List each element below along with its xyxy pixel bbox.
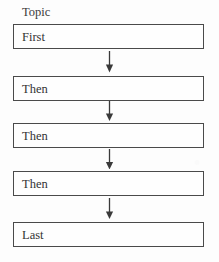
flow-step-label-3: Then — [14, 129, 48, 143]
flow-step-label-1: First — [14, 30, 45, 44]
flow-step-label-4: Then — [14, 177, 48, 191]
flow-step-label-2: Then — [14, 82, 48, 96]
flow-step-box-4[interactable]: Then — [13, 171, 204, 196]
down-arrow-icon-1 — [104, 51, 115, 73]
topic-label: Topic — [22, 5, 50, 20]
flowchart-canvas: Topic First Then Then Then — [0, 0, 219, 262]
flow-step-box-5[interactable]: Last — [13, 222, 204, 247]
down-arrow-icon-4 — [104, 197, 115, 219]
down-arrow-icon-2 — [104, 99, 115, 121]
flow-step-box-3[interactable]: Then — [13, 123, 204, 148]
flow-step-box-1[interactable]: First — [13, 24, 204, 49]
flow-step-label-5: Last — [14, 228, 44, 242]
down-arrow-icon-3 — [104, 147, 115, 169]
flow-step-box-2[interactable]: Then — [13, 76, 204, 101]
